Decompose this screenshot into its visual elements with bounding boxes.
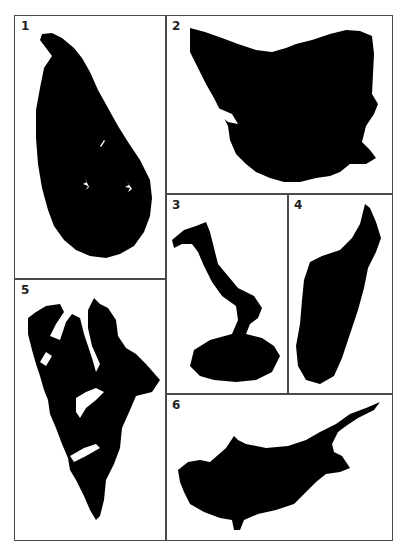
panel-label-4: 4 xyxy=(294,198,302,212)
panel-label-2: 2 xyxy=(172,19,180,33)
cyprus-silhouette xyxy=(178,402,380,530)
spitsbergen-silhouette xyxy=(28,298,160,520)
panel-label-5: 5 xyxy=(21,283,29,297)
panel-label-1: 1 xyxy=(21,19,29,33)
panel-label-3: 3 xyxy=(172,198,180,212)
sri-lanka-silhouette xyxy=(36,33,152,258)
silhouettes-layer xyxy=(0,0,405,555)
madagascar-silhouette xyxy=(296,204,381,384)
tasmania-silhouette xyxy=(190,28,378,182)
panel-label-6: 6 xyxy=(172,398,180,412)
isabela-island-silhouette xyxy=(172,222,280,382)
